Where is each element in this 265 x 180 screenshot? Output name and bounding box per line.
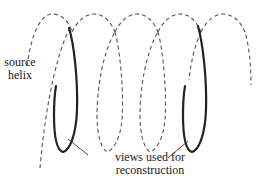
views-label-line2: reconstruction: [94, 164, 206, 177]
views-label: views used for reconstruction: [94, 151, 206, 177]
helix-loop-3-down: [140, 32, 166, 152]
helix-loop-2-down: [97, 32, 123, 152]
leader-line-left: [68, 139, 88, 155]
helix-loop-3: [115, 14, 158, 32]
helix-loop-2: [72, 14, 115, 32]
view-segment-1: [54, 28, 77, 152]
source-helix-label: source helix: [0, 56, 40, 82]
helix-loop-4-left: [189, 32, 201, 80]
source-helix: [27, 14, 251, 168]
reconstruction-views: [54, 26, 206, 152]
helix-loop-4: [158, 14, 201, 32]
helix-loop-5: [201, 14, 251, 85]
source-helix-label-line2: helix: [0, 69, 40, 82]
view-segment-2: [183, 26, 206, 152]
